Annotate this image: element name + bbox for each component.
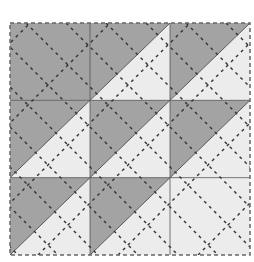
quilt-block-diagram bbox=[0, 0, 254, 262]
